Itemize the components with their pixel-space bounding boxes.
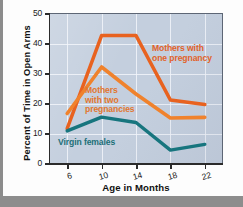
line-chart-figure: 50 40 30 20 10 0 6 10 14 18 22 Percent o… — [0, 0, 243, 196]
page: 50 40 30 20 10 0 6 10 14 18 22 Percent o… — [0, 0, 243, 207]
series-label-one-pregnancy-line2: one pregnancy — [152, 54, 234, 64]
series-label-one-pregnancy: Mothers with one pregnancy — [152, 44, 234, 63]
series-label-two-pregnancies: Mothers with two pregnancies — [85, 86, 147, 115]
page-edge-bottom — [0, 196, 243, 207]
series-label-virgin-females: Virgin females — [58, 138, 144, 148]
series-label-two-pregnancies-line3: pregnancies — [85, 105, 147, 115]
